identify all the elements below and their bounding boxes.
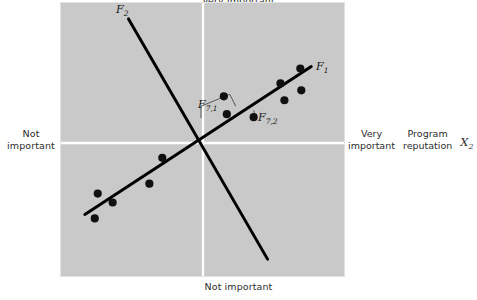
data-point [220, 92, 228, 100]
data-point [223, 110, 231, 118]
label-f2-letter: F [116, 3, 124, 16]
axis-caption-line2: reputation [403, 140, 452, 152]
data-point [297, 86, 305, 94]
label-f7-2-letter: F [258, 111, 266, 124]
axis-label-left-line1: Not [23, 128, 40, 139]
data-point [296, 64, 304, 72]
label-f7-2-subscript: 7,2 [266, 117, 278, 126]
label-f7-1: F7,1 [198, 98, 218, 113]
axis-label-right-line2: important [348, 140, 395, 152]
data-point [91, 214, 99, 222]
label-f7-1-letter: F [198, 98, 206, 111]
axis-caption-program-reputation: Program reputation [403, 128, 452, 151]
factor-axis-f2 [129, 19, 268, 259]
axis-label-right: Very important [348, 128, 395, 151]
axis-caption-line1: Program [403, 128, 452, 140]
axis-label-right-group: Very important Program reputation X2 [348, 128, 474, 151]
axis-label-left: Not important [2, 128, 60, 151]
label-f1-letter: F [316, 60, 324, 73]
label-f2: F2 [116, 3, 128, 18]
label-f7-2: F7,2 [258, 111, 278, 126]
label-f1-subscript: 1 [324, 66, 329, 75]
data-point [280, 96, 288, 104]
factor-rotation-figure: Very important Not important Not importa… [0, 0, 477, 300]
plot-area [60, 2, 345, 277]
axis-label-bottom: Not important [0, 281, 477, 293]
data-point [276, 79, 284, 87]
label-f7-1-subscript: 7,1 [206, 104, 218, 113]
data-point [158, 154, 166, 162]
label-f2-subscript: 2 [124, 9, 129, 18]
axis-variable-x2: X2 [460, 135, 473, 151]
axis-variable-subscript: 2 [468, 142, 473, 151]
label-f1: F1 [316, 60, 328, 75]
data-point [250, 113, 258, 121]
plot-graphics [61, 3, 344, 276]
axis-label-right-line1: Very [348, 128, 395, 140]
data-point [109, 198, 117, 206]
axes-crosshair [61, 3, 344, 276]
data-point [145, 180, 153, 188]
axis-label-left-line2: important [7, 140, 55, 151]
data-point [94, 190, 102, 198]
